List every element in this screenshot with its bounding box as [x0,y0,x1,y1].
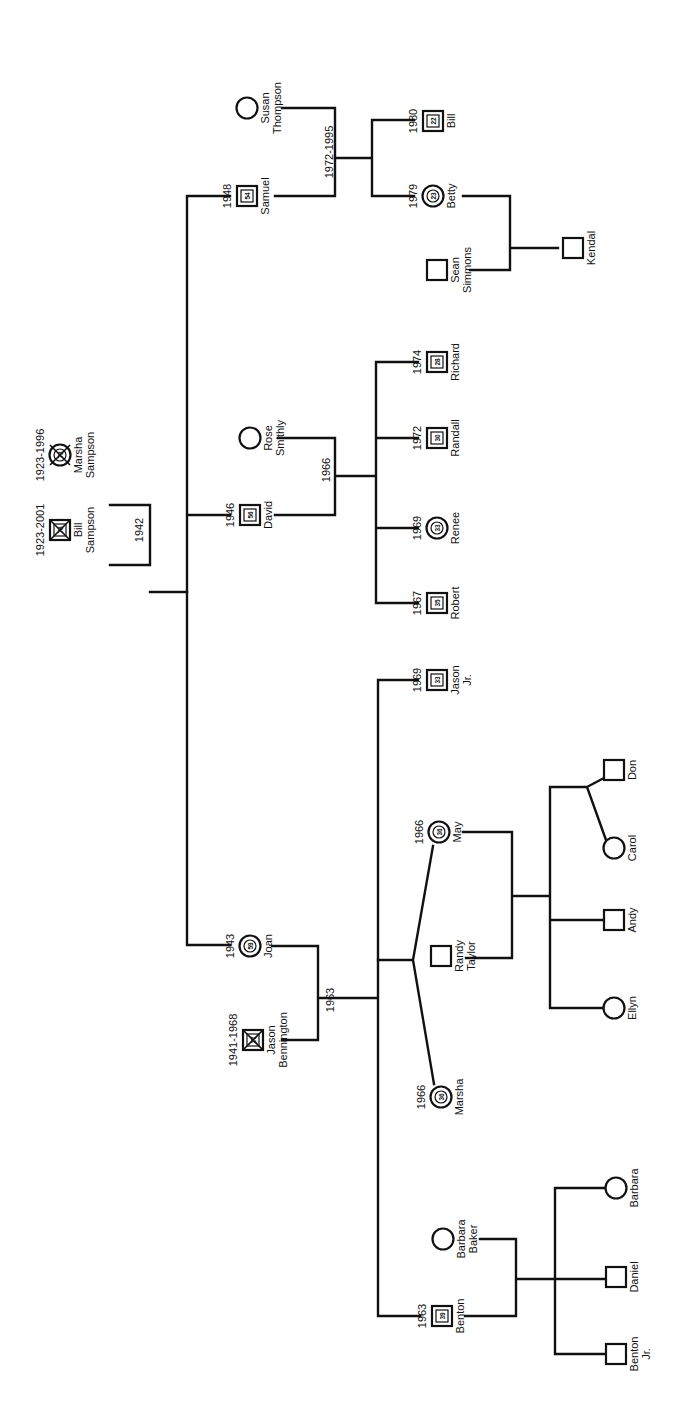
person-name-label: Randy [453,940,465,972]
person-jason_sr[interactable]: 271941-1968JasonBennington [227,1012,289,1068]
person-name-label: Bill [445,114,457,129]
male-square-icon [604,760,624,780]
person-betty[interactable]: 231979Betty [407,183,457,209]
female-circle-icon [237,98,258,119]
age-label: 22 [430,117,437,125]
person-ellyn[interactable]: Ellyn [604,996,639,1020]
birth-date-label: 1948 [221,184,233,208]
person-rose[interactable]: RoseSmithly [240,419,287,456]
female-circle-icon [604,838,625,859]
relationship-line [463,778,606,1008]
marriage-year-label: 1942 [133,518,145,542]
person-barbara[interactable]: Barbara [606,1168,641,1208]
person-name-label: Benton [454,1299,466,1334]
person-bill_jr[interactable]: 221980Bill [407,109,457,133]
person-sean[interactable]: SeanSimmons [427,247,473,293]
birth-date-label: 1967 [411,591,423,615]
person-name-label: Thompson [271,82,283,134]
relationship-line [275,362,418,603]
person-kendal[interactable]: Kendal [563,231,597,265]
person-marsha_sr[interactable]: 731923-1996MarshaSampson [34,429,96,482]
person-renee[interactable]: 331969Renee [411,512,461,544]
birth-date-label: 1980 [407,109,419,133]
birth-date-label: 1923-2001 [34,504,46,557]
age-label: 36 [438,1093,445,1101]
person-david[interactable]: 561946David [224,501,274,529]
birth-date-label: 1966 [415,1085,427,1109]
person-jason_jr[interactable]: 331969JasonJr. [411,665,473,694]
relationship-lines [110,108,606,1354]
age-label: 54 [244,192,251,200]
person-randall[interactable]: 301972Randall [411,419,461,456]
person-name-label: David [262,501,274,529]
person-name-label: Don [626,760,638,780]
birth-date-label: 1941-1968 [227,1014,239,1067]
female-circle-icon [433,1229,454,1250]
person-susan[interactable]: SusanThompson [237,82,284,134]
relationship-line [187,196,230,945]
male-square-icon [427,260,447,280]
birth-date-label: 1969 [411,516,423,540]
person-name-label: Jason [449,665,461,694]
person-don[interactable]: Don [604,760,638,780]
person-name-label: Randall [449,419,461,456]
relationship-line [463,196,558,270]
person-may[interactable]: 361966May [413,820,463,844]
relationship-line [378,846,434,1084]
person-name-label: Rose [262,425,274,451]
person-name-label: Andy [626,907,638,933]
person-randy[interactable]: RandyTaylor [431,940,477,972]
person-name-label: Marsha [453,1078,465,1116]
male-square-icon [604,910,624,930]
marriage-year-label: 1966 [320,458,332,482]
people-nodes: 781923-2001BillSampson731923-1996MarshaS… [34,82,652,1371]
person-name-label: Barbara [455,1219,467,1259]
age-label: 36 [436,828,443,836]
age-label: 35 [434,599,441,607]
relationship-line [465,1188,604,1354]
age-label: 33 [434,676,441,684]
person-name-label: Simmons [461,247,473,293]
birth-date-label: 1974 [411,350,423,374]
person-name-label: Jr. [640,1348,652,1360]
age-label: 39 [439,1312,446,1320]
person-marsha_t[interactable]: 361966Marsha [415,1078,465,1116]
person-daniel[interactable]: Daniel [606,1261,640,1292]
person-name-label: Samuel [259,177,271,214]
age-label: 28 [434,358,441,366]
person-samuel[interactable]: 541948Samuel [221,177,271,214]
birth-date-label: 1969 [411,668,423,692]
person-name-label: Kendal [585,231,597,265]
person-carol[interactable]: Carol [604,835,639,861]
birth-date-label: 1979 [407,184,419,208]
person-name-label: Bennington [277,1012,289,1068]
person-name-label: Betty [445,183,457,209]
person-name-label: Sean [449,257,461,283]
person-name-label: Jason [265,1025,277,1054]
person-name-label: Renee [449,512,461,544]
person-robert[interactable]: 351967Robert [411,586,461,619]
person-name-label: Taylor [465,941,477,971]
person-bill_sr[interactable]: 781923-2001BillSampson [34,504,96,557]
marriage-labels: 19421972-199519661963 [133,126,336,1013]
birth-date-label: 1946 [224,503,236,527]
male-square-icon [563,238,583,258]
person-name-label: Sampson [84,432,96,478]
person-name-label: Carol [626,835,638,861]
person-name-label: Ellyn [626,996,638,1020]
birth-date-label: 1943 [224,934,236,958]
person-richard[interactable]: 281974Richard [411,343,461,381]
age-label: 33 [434,524,441,532]
birth-date-label: 1963 [416,1304,428,1328]
male-square-icon [606,1344,626,1364]
person-name-label: Susan [259,92,271,123]
person-joan[interactable]: 591943Joan [224,934,274,958]
age-label: 59 [247,942,254,950]
person-barbara_b[interactable]: BarbaraBaker [433,1219,480,1259]
person-benton[interactable]: 391963Benton [416,1299,466,1334]
person-name-label: Bill [72,523,84,538]
person-andy[interactable]: Andy [604,907,638,933]
genogram-canvas: 19421972-199519661963 781923-2001BillSam… [0,0,699,1428]
male-square-icon [431,946,451,966]
person-benton_jr[interactable]: BentonJr. [606,1337,652,1372]
